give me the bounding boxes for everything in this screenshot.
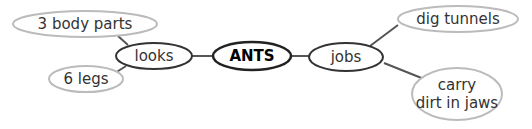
node-label: ANTS <box>229 47 274 65</box>
node-label-line1: carry <box>438 76 477 94</box>
concept-map: 3 body parts 6 legs dig tunnels carry di… <box>0 0 532 129</box>
connector-jobs-tunnels <box>370 25 398 46</box>
node-carry-dirt-in-jaws: carry dirt in jaws <box>412 68 502 120</box>
node-label: 6 legs <box>63 70 108 88</box>
node-label: 3 body parts <box>38 15 133 33</box>
node-label: looks <box>134 47 173 65</box>
node-6-legs: 6 legs <box>49 66 123 92</box>
node-looks: looks <box>116 43 192 69</box>
node-label: dig tunnels <box>416 10 500 28</box>
node-center-ants: ANTS <box>213 42 291 70</box>
node-dig-tunnels: dig tunnels <box>398 6 518 32</box>
node-3-body-parts: 3 body parts <box>13 11 157 37</box>
connector-jobs-dirt <box>384 63 424 79</box>
node-label: jobs <box>330 48 362 66</box>
connector-looks-bodyparts <box>118 36 128 45</box>
node-label-line2: dirt in jaws <box>416 94 499 112</box>
node-jobs: jobs <box>309 43 383 71</box>
